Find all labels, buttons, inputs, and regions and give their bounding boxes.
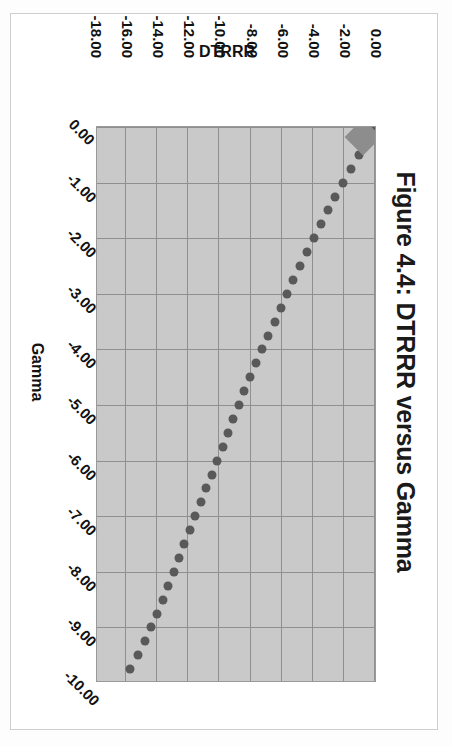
gridline-horizontal — [250, 127, 251, 681]
data-point — [202, 483, 211, 492]
data-point — [229, 414, 238, 423]
data-point — [310, 233, 319, 242]
x-axis-title: Gamma — [28, 22, 46, 722]
data-point — [234, 400, 243, 409]
data-point — [339, 178, 348, 187]
gridline-horizontal — [156, 127, 157, 681]
data-point — [303, 247, 312, 256]
data-point — [180, 539, 189, 548]
data-point — [224, 428, 233, 437]
gridline-horizontal — [187, 127, 188, 681]
x-axis-tick-label: -4.00 — [64, 336, 100, 372]
scan-page-frame: Figure 4.4: DTRRR versus Gamma DTRRR 0.0… — [10, 13, 438, 730]
data-point — [191, 511, 200, 520]
data-point — [175, 553, 184, 562]
data-point — [196, 497, 205, 506]
data-point — [140, 636, 149, 645]
plot-area — [96, 126, 376, 682]
gridline-vertical — [97, 238, 375, 239]
data-point — [207, 470, 216, 479]
y-axis-tick-label: -2.00 — [336, 0, 353, 58]
data-point — [258, 344, 267, 353]
x-axis-tick-label: -1.00 — [64, 169, 100, 205]
highlight-diamond-icon — [345, 126, 376, 155]
y-axis-tick-label: -8.00 — [243, 0, 260, 58]
rotated-chart-wrapper: Figure 4.4: DTRRR versus Gamma DTRRR 0.0… — [24, 22, 424, 722]
gridline-vertical — [97, 183, 375, 184]
data-point — [169, 567, 178, 576]
data-point — [185, 525, 194, 534]
data-point — [153, 609, 162, 618]
data-point — [346, 164, 355, 173]
gridline-vertical — [97, 627, 375, 628]
data-point — [126, 664, 135, 673]
data-point — [264, 331, 273, 340]
y-axis-tick-label: -18.00 — [88, 0, 105, 58]
data-point — [283, 289, 292, 298]
data-point — [133, 650, 142, 659]
data-point — [317, 219, 326, 228]
data-point — [240, 386, 249, 395]
data-point — [270, 317, 279, 326]
x-axis-tick-label: -9.00 — [64, 614, 100, 650]
gridline-vertical — [97, 516, 375, 517]
gridline-horizontal — [281, 127, 282, 681]
x-axis-tick-label: -3.00 — [64, 280, 100, 316]
y-axis-tick-label: -10.00 — [212, 0, 229, 58]
data-point — [252, 358, 261, 367]
gridline-vertical — [97, 461, 375, 462]
data-point — [276, 303, 285, 312]
data-point — [213, 456, 222, 465]
gridline-vertical — [97, 572, 375, 573]
chart-figure: Figure 4.4: DTRRR versus Gamma DTRRR 0.0… — [24, 22, 424, 722]
data-point — [289, 275, 298, 284]
gridline-horizontal — [312, 127, 313, 681]
data-point — [218, 442, 227, 451]
gridline-horizontal — [374, 127, 375, 681]
gridline-vertical — [97, 349, 375, 350]
chart-title: Figure 4.4: DTRRR versus Gamma — [391, 22, 420, 722]
y-axis-tick-label: -4.00 — [305, 0, 322, 58]
y-axis-tick-label: -6.00 — [274, 0, 291, 58]
x-axis-tick-label: 0.00 — [66, 115, 99, 148]
data-point — [147, 622, 156, 631]
y-axis-tick-label: -16.00 — [119, 0, 136, 58]
data-point — [324, 205, 333, 214]
gridline-vertical — [97, 294, 375, 295]
gridline-horizontal — [125, 127, 126, 681]
x-axis-tick-label: -2.00 — [64, 225, 100, 261]
gridline-vertical — [97, 127, 375, 128]
x-axis-tick-label: -8.00 — [64, 558, 100, 594]
data-point — [245, 372, 254, 381]
y-axis-tick-label: -14.00 — [150, 0, 167, 58]
x-axis-tick-label: -7.00 — [64, 503, 100, 539]
gridline-horizontal — [343, 127, 344, 681]
gridline-horizontal — [218, 127, 219, 681]
data-point — [331, 192, 340, 201]
data-point — [164, 581, 173, 590]
data-point — [296, 261, 305, 270]
x-axis-tick-label: -5.00 — [64, 391, 100, 427]
x-axis-tick-label: -6.00 — [64, 447, 100, 483]
data-point — [158, 595, 167, 604]
y-axis-tick-label: 0.00 — [368, 0, 385, 58]
y-axis-tick-label: -12.00 — [181, 0, 198, 58]
